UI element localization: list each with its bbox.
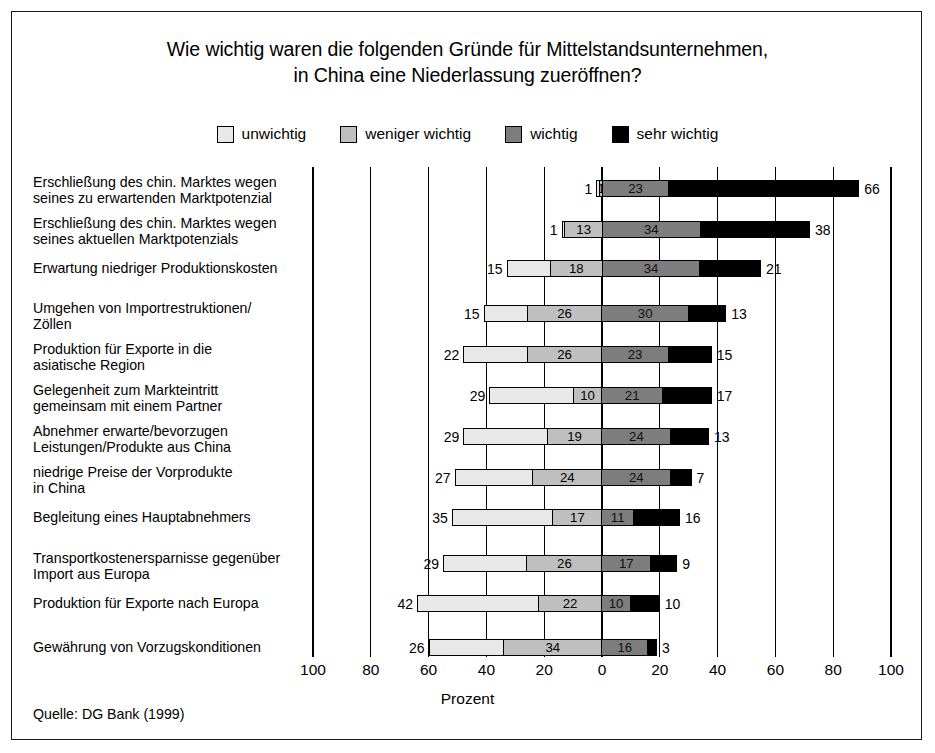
bar-segment-5-0[interactable] — [489, 387, 573, 404]
chart-frame: Wie wichtig waren die folgenden Gründe f… — [11, 11, 922, 740]
bar-segment-8-2[interactable]: 11 — [601, 509, 634, 526]
bar-start-value-4: 22 — [419, 347, 459, 363]
bar-segment-5-3[interactable] — [662, 387, 712, 404]
bar-segment-9-1[interactable]: 26 — [526, 555, 602, 572]
bar-segment-8-1[interactable]: 17 — [552, 509, 602, 526]
bar-segment-6-1[interactable]: 19 — [547, 428, 603, 445]
bar-start-value-3: 15 — [440, 306, 480, 322]
bar-row-5[interactable]: 1021 — [489, 387, 712, 404]
bar-start-value-11: 26 — [385, 640, 425, 656]
axis-line-zero — [601, 167, 602, 649]
bar-segment-10-2[interactable]: 10 — [601, 595, 631, 612]
bar-row-7[interactable]: 2424 — [455, 469, 692, 486]
bar-end-value-11: 3 — [662, 640, 670, 656]
source-note: Quelle: DG Bank (1999) — [33, 706, 184, 722]
bar-row-6[interactable]: 1924 — [463, 428, 709, 445]
bar-segment-7-0[interactable] — [455, 469, 534, 486]
bar-segment-7-2[interactable]: 24 — [601, 469, 671, 486]
bar-segment-5-1[interactable]: 10 — [573, 387, 603, 404]
bar-segment-6-0[interactable] — [463, 428, 548, 445]
bar-row-11[interactable]: 3416 — [429, 639, 657, 656]
bar-segment-4-3[interactable] — [668, 346, 712, 363]
bar-segment-6-3[interactable] — [670, 428, 708, 445]
bar-segment-8-3[interactable] — [633, 509, 680, 526]
x-tick-label-1: 80 — [351, 661, 391, 679]
bar-segment-6-2[interactable]: 24 — [601, 428, 671, 445]
gridline-100 — [890, 167, 891, 649]
bar-segment-3-1[interactable]: 26 — [527, 305, 603, 322]
bar-segment-3-2[interactable]: 30 — [601, 305, 688, 322]
bar-row-1[interactable]: 1334 — [562, 221, 811, 238]
x-tick-7 — [717, 649, 718, 657]
category-label-line-7-0: niedrige Preise der Vorprodukte — [33, 464, 353, 480]
bar-segment-9-2[interactable]: 17 — [601, 555, 651, 572]
bar-segment-4-0[interactable] — [463, 346, 527, 363]
x-tick-label-0: 100 — [293, 661, 333, 679]
bar-segment-value-4-2: 23 — [628, 348, 643, 361]
bar-segment-1-1[interactable]: 13 — [564, 221, 603, 238]
gridline--80 — [370, 167, 371, 649]
bar-segment-11-0[interactable] — [429, 639, 505, 656]
bar-segment-10-0[interactable] — [417, 595, 539, 612]
category-label-line-6-1: Leistungen/Produkte aus China — [33, 439, 353, 455]
bar-segment-0-3[interactable] — [668, 180, 859, 197]
bar-segment-2-1[interactable]: 18 — [550, 260, 603, 277]
x-tick-1 — [370, 649, 371, 657]
bar-row-4[interactable]: 2623 — [463, 346, 712, 363]
gridline--60 — [428, 167, 429, 649]
bar-start-value-5: 29 — [445, 388, 485, 404]
bar-segment-value-10-1: 22 — [563, 597, 578, 610]
bar-segment-2-3[interactable] — [699, 260, 761, 277]
bar-segment-11-1[interactable]: 34 — [503, 639, 602, 656]
category-label-line-10-0: Produktion für Exporte nach Europa — [33, 595, 353, 611]
bar-segment-5-2[interactable]: 21 — [601, 387, 662, 404]
bar-start-value-8: 35 — [408, 510, 448, 526]
category-label-line-6-0: Abnehmer erwarte/bevorzugen — [33, 423, 353, 439]
bar-segment-1-3[interactable] — [700, 221, 810, 238]
bar-segment-9-3[interactable] — [650, 555, 677, 572]
x-tick-label-2: 60 — [409, 661, 449, 679]
bar-segment-11-2[interactable]: 16 — [601, 639, 648, 656]
category-label-line-1-1: seines aktuellen Marktpotenzials — [33, 231, 353, 247]
category-label-line-11-0: Gewährung von Vorzugskonditionen — [33, 639, 353, 655]
category-label-line-2-0: Erwartung niedriger Produktionskosten — [33, 260, 353, 276]
category-label-11: Gewährung von Vorzugskonditionen — [33, 639, 353, 655]
bar-row-10[interactable]: 2210 — [417, 595, 660, 612]
bar-row-3[interactable]: 2630 — [484, 305, 727, 322]
bar-segment-value-1-2: 34 — [644, 223, 659, 236]
bar-segment-2-2[interactable]: 34 — [602, 260, 701, 277]
bar-end-value-2: 21 — [766, 261, 782, 277]
x-tick-label-6: 20 — [640, 661, 680, 679]
bar-segment-9-0[interactable] — [443, 555, 528, 572]
bar-segment-10-3[interactable] — [630, 595, 660, 612]
bar-segment-3-0[interactable] — [484, 305, 528, 322]
bar-segment-3-3[interactable] — [688, 305, 726, 322]
bar-segment-10-1[interactable]: 22 — [538, 595, 602, 612]
bar-end-value-0: 66 — [864, 181, 880, 197]
bar-row-2[interactable]: 1834 — [507, 260, 761, 277]
bar-segment-2-0[interactable] — [507, 260, 551, 277]
bar-segment-0-2[interactable]: 23 — [602, 180, 669, 197]
category-label-0: Erschließung des chin. Marktes wegensein… — [33, 174, 353, 207]
bar-row-0[interactable]: 123 — [596, 180, 859, 197]
bar-segment-7-1[interactable]: 24 — [532, 469, 602, 486]
category-label-3: Umgehen von Importrestruktionen/Zöllen — [33, 300, 353, 333]
bar-start-value-6: 29 — [419, 429, 459, 445]
bar-row-9[interactable]: 2617 — [443, 555, 677, 572]
bar-start-value-0: 1 — [552, 181, 592, 197]
bar-segment-value-9-1: 26 — [557, 557, 572, 570]
bar-segment-value-8-2: 11 — [611, 511, 625, 524]
category-label-8: Begleitung eines Hauptabnehmers — [33, 509, 353, 525]
bar-segment-8-0[interactable] — [452, 509, 554, 526]
bar-segment-7-3[interactable] — [670, 469, 691, 486]
bar-segment-11-3[interactable] — [647, 639, 657, 656]
gridline-40 — [717, 167, 718, 649]
bar-segment-4-1[interactable]: 26 — [527, 346, 603, 363]
bar-row-8[interactable]: 1711 — [452, 509, 680, 526]
bar-end-value-6: 13 — [714, 429, 730, 445]
bar-segment-4-2[interactable]: 23 — [601, 346, 668, 363]
bar-segment-1-2[interactable]: 34 — [602, 221, 701, 238]
bar-start-value-7: 27 — [411, 470, 451, 486]
bar-segment-value-4-1: 26 — [557, 348, 572, 361]
category-label-line-8-0: Begleitung eines Hauptabnehmers — [33, 509, 353, 525]
